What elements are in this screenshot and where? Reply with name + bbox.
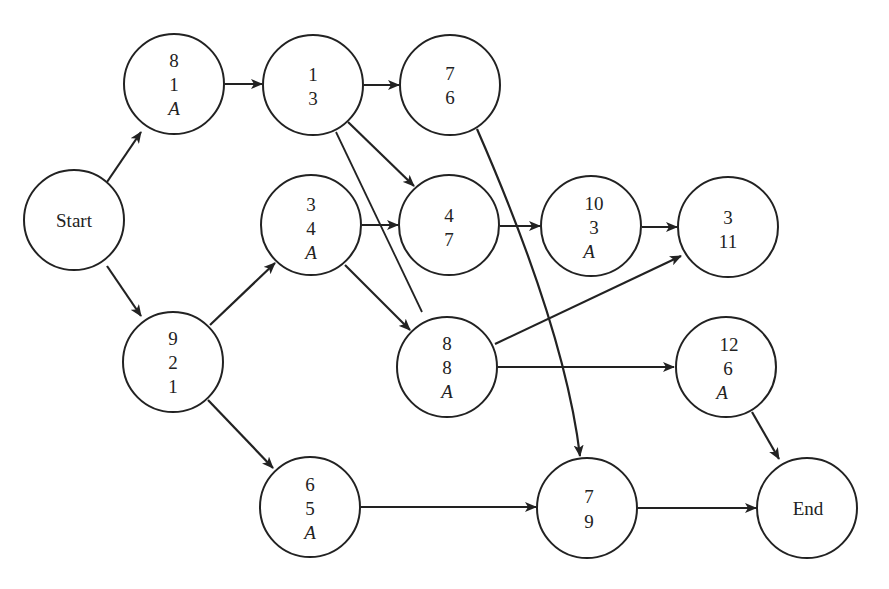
edge-9-2-1-to-6-5-A	[208, 400, 273, 468]
node-8-1-A: 8 1 A	[124, 34, 224, 134]
node-label-line2: 2	[168, 352, 178, 373]
node-label-line2: 6	[445, 87, 455, 108]
edge-7-6-to-7-9	[477, 129, 580, 456]
edge-start-to-9-2-1	[107, 266, 141, 316]
node-label-line1: 7	[584, 486, 594, 507]
edges	[107, 84, 779, 508]
node-10-3-A: 10 3 A	[541, 176, 641, 276]
node-label-line2: 3	[589, 217, 599, 238]
node-9-2-1: 9 2 1	[123, 312, 223, 412]
edge-12-6-A-to-end	[752, 412, 779, 459]
node-3-11: 3 11	[678, 177, 778, 277]
node-label-line2: 7	[444, 229, 454, 250]
nodes: Start 8 1 A 1 3 7 6 3 4 A 4 7	[24, 34, 857, 558]
node-label-line3: A	[166, 98, 180, 119]
edge-3-4-A-to-8-8-A	[345, 265, 410, 330]
node-1-3: 1 3	[263, 35, 363, 135]
node-label-line3: A	[439, 381, 453, 402]
node-label-line3: A	[303, 242, 317, 263]
node-label-line2: 1	[169, 74, 179, 95]
edge-start-to-8-1-A	[107, 132, 141, 182]
node-label-line1: 8	[442, 333, 452, 354]
node-label-line2: 4	[306, 218, 316, 239]
node-label-line2: 3	[308, 88, 318, 109]
node-label-line2: 5	[305, 498, 315, 519]
node-12-6-A: 12 6 A	[676, 317, 776, 417]
network-diagram: Start 8 1 A 1 3 7 6 3 4 A 4 7	[0, 0, 889, 589]
node-start: Start	[24, 170, 124, 270]
node-label: Start	[56, 210, 93, 231]
node-label-line1: 3	[306, 194, 316, 215]
node-7-6: 7 6	[400, 35, 500, 135]
node-label-line1: 7	[445, 63, 455, 84]
node-label-line1: 6	[305, 474, 315, 495]
node-7-9: 7 9	[537, 458, 637, 558]
node-label-line2: 9	[584, 511, 594, 532]
node-label-line2: 6	[723, 358, 733, 379]
node-label: End	[793, 498, 824, 519]
node-end: End	[757, 458, 857, 558]
node-label-line1: 8	[169, 50, 179, 71]
node-label-line1: 3	[723, 207, 733, 228]
node-label-line2: 8	[442, 357, 452, 378]
node-label-line3: A	[302, 522, 316, 543]
node-label-line1: 12	[720, 334, 739, 355]
node-label-line1: 4	[444, 205, 454, 226]
node-label-line1: 10	[585, 193, 604, 214]
node-label-line1: 1	[308, 64, 318, 85]
edge-9-2-1-to-3-4-A	[210, 263, 275, 325]
node-label-line3: A	[714, 382, 728, 403]
node-4-7: 4 7	[399, 175, 499, 275]
node-label-line3: 1	[168, 376, 178, 397]
node-6-5-A: 6 5 A	[260, 457, 360, 557]
node-label-line3: A	[581, 241, 595, 262]
node-label-line1: 9	[168, 328, 178, 349]
node-label-line2: 11	[719, 231, 737, 252]
node-8-8-A: 8 8 A	[397, 317, 497, 417]
node-3-4-A: 3 4 A	[261, 175, 361, 275]
